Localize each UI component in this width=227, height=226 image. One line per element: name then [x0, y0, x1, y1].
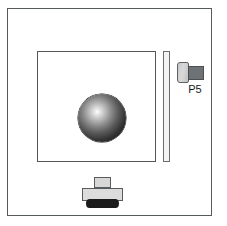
base-mount — [81, 177, 125, 209]
connector-label: P5 — [181, 83, 209, 96]
mount-foot — [86, 199, 119, 208]
mount-cap — [94, 177, 111, 188]
p5-connector: P5 — [176, 61, 208, 97]
enclosure-panel: P5 — [7, 8, 212, 216]
technical-diagram: P5 — [0, 0, 227, 226]
spherical-element-icon — [78, 94, 126, 142]
vertical-bar — [163, 51, 170, 162]
connector-plug — [188, 66, 204, 80]
